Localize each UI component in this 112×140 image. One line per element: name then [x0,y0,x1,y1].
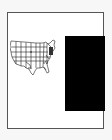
us-map-icon [10,38,58,78]
black-rectangle [65,36,105,111]
document-page [7,12,104,129]
